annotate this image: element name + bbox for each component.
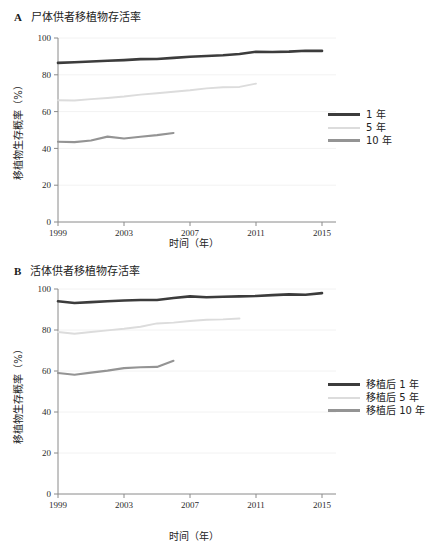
x-tick-label-2011: 2011 [247,228,265,238]
x-tick-label-2007: 2007 [181,500,200,510]
legend-item-3[interactable]: 10 年 [328,134,392,147]
legend-item-2[interactable]: 5 年 [328,121,392,134]
series-line-1 [58,293,322,303]
y-tick-label-20: 20 [42,448,52,458]
legend-item-3[interactable]: 移植后 10 年 [328,404,425,417]
legend-item-1[interactable]: 1 年 [328,108,392,121]
x-axis-title: 时间（年） [169,530,219,542]
legend-label-2: 移植后 5 年 [366,391,419,404]
legend-swatch-icon-3 [328,139,360,142]
y-tick-label-40: 40 [42,144,52,154]
legend-swatch-icon-1 [328,383,360,386]
legend-label-1: 1 年 [366,108,386,121]
series-line-3 [58,361,174,375]
legend-item-2[interactable]: 移植后 5 年 [328,391,425,404]
legend-label-1: 移植后 1 年 [366,378,419,391]
x-tick-label-1999: 1999 [49,500,68,510]
legend-label-3: 10 年 [366,134,392,147]
x-tick-label-1999: 1999 [49,228,68,238]
legend-label-2: 5 年 [366,121,386,134]
y-tick-label-40: 40 [42,407,52,417]
legend-swatch-icon-2 [328,127,360,129]
y-axis-title: 移植物生存概率（%） [12,80,24,180]
y-tick-label-80: 80 [42,325,52,335]
x-tick-label-2015: 2015 [313,500,332,510]
y-tick-label-100: 100 [38,33,52,43]
legend-item-1[interactable]: 移植后 1 年 [328,378,425,391]
x-axis-title: 时间（年） [169,237,219,249]
y-tick-label-80: 80 [42,70,52,80]
y-tick-label-0: 0 [47,489,52,499]
y-tick-label-20: 20 [42,180,52,190]
x-tick-label-2003: 2003 [115,228,134,238]
legend-swatch-icon-2 [328,397,360,399]
y-tick-label-60: 60 [42,366,52,376]
series-line-2 [58,84,256,101]
series-line-1 [58,51,322,63]
x-tick-label-2003: 2003 [115,500,134,510]
legend-swatch-icon-3 [328,409,360,412]
series-line-3 [58,133,174,142]
y-tick-label-0: 0 [47,217,52,227]
y-tick-label-100: 100 [38,284,52,294]
x-tick-label-2007: 2007 [181,228,200,238]
legend-label-3: 移植后 10 年 [366,404,425,417]
panel-b-legend: 移植后 1 年移植后 5 年移植后 10 年 [328,378,425,417]
x-tick-label-2011: 2011 [247,500,265,510]
panel-a: A 尸体供者移植物存活率 020406080100199920032007201… [0,0,441,254]
y-tick-label-60: 60 [42,107,52,117]
series-line-2 [58,319,240,334]
y-axis-title: 移植物生存概率（%） [12,344,24,444]
panel-b: B 活体供者移植物存活率 020406080100199920032007201… [0,254,441,552]
legend-swatch-icon-1 [328,113,360,116]
panel-a-legend: 1 年5 年10 年 [328,108,392,147]
x-tick-label-2015: 2015 [313,228,332,238]
